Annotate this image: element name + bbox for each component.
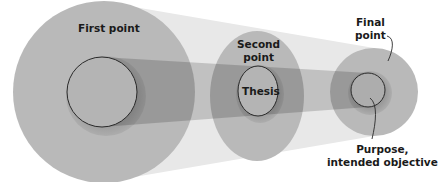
purpose-label-line1: Purpose,	[327, 143, 438, 156]
final-point-label-line2: point	[355, 29, 386, 42]
purpose-circle	[351, 73, 385, 107]
second-point-label: Second point	[237, 38, 280, 64]
second-point-label-line1: Second	[237, 38, 280, 51]
thesis-label: Thesis	[242, 85, 280, 98]
second-point-label-line2: point	[237, 51, 280, 64]
purpose-label: Purpose, intended objective	[327, 143, 438, 169]
final-point-label-line1: Final	[355, 16, 386, 29]
first-point-inner-circle	[67, 57, 137, 127]
purpose-label-line2: intended objective	[327, 156, 438, 169]
first-point-label: First point	[78, 22, 140, 35]
final-point-label: Final point	[355, 16, 386, 42]
